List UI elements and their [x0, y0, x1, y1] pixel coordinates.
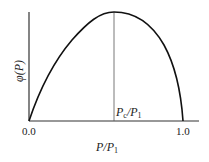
- chart-area: φ(P) 0.0 1.0 Pc/P1 P/P1: [0, 0, 209, 162]
- critical-ratio-annotation: Pc/P1: [116, 106, 142, 120]
- x-axis-label: P/P1: [96, 141, 118, 155]
- x-tick-1: 1.0: [176, 126, 190, 137]
- y-axis-label: φ(P): [13, 60, 25, 82]
- phi-curve: [29, 12, 183, 121]
- x-tick-0: 0.0: [22, 126, 36, 137]
- plot-svg: [0, 0, 209, 162]
